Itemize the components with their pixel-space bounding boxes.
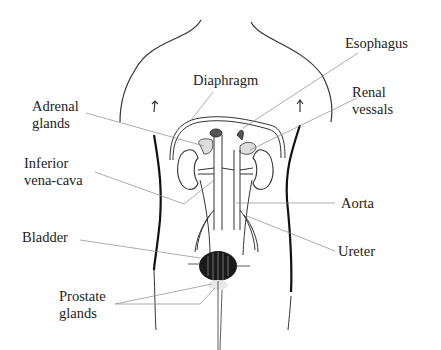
label-bladder: Bladder bbox=[22, 229, 68, 246]
label-ureter: Ureter bbox=[338, 243, 375, 260]
prostate bbox=[208, 280, 228, 350]
label-aorta: Aorta bbox=[341, 195, 374, 212]
esophagus bbox=[210, 129, 243, 140]
bladder bbox=[188, 251, 250, 281]
kidneys bbox=[178, 150, 273, 190]
label-adrenal-glands: Adrenal glands bbox=[32, 98, 79, 132]
label-diaphragm: Diaphragm bbox=[193, 72, 258, 89]
label-esophagus: Esophagus bbox=[345, 35, 408, 52]
label-prostate-glands: Prostate glands bbox=[59, 288, 106, 322]
label-renal-vessels: Renal vessals bbox=[352, 84, 393, 118]
adrenal-glands bbox=[199, 139, 256, 155]
body-outline bbox=[120, 20, 332, 122]
label-inferior-vena-cava: Inferior vena-cava bbox=[24, 155, 83, 189]
